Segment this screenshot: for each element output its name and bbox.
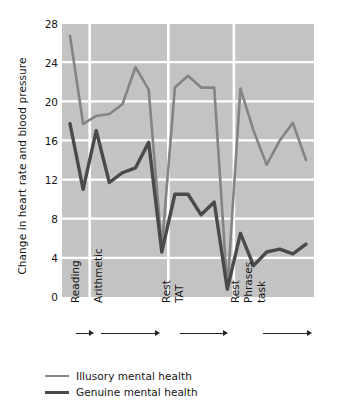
arrow-line-4 xyxy=(263,333,307,334)
x-label-rest-1: Rest xyxy=(160,280,172,303)
arrow-head-2 xyxy=(155,330,160,336)
arrow-line-2 xyxy=(101,333,155,334)
legend-label-genuine: Genuine mental health xyxy=(76,386,198,398)
x-label-reading: Reading xyxy=(69,260,81,303)
x-label-task: task xyxy=(255,281,267,303)
legend-label-illusory: Illusory mental health xyxy=(76,370,192,382)
chart-figure: Change in heart rate and blood pressure … xyxy=(0,0,339,412)
phase-separators xyxy=(90,23,234,297)
x-label-arithmetic: Arithmetic xyxy=(92,248,104,303)
arrow-line-1 xyxy=(76,333,89,334)
y-tick-label-28: 28 xyxy=(36,18,58,30)
x-tick-11 xyxy=(200,297,202,304)
y-tick-label-0: 0 xyxy=(36,291,58,303)
legend-item-genuine: Genuine mental health xyxy=(45,384,198,400)
y-tick-label-20: 20 xyxy=(36,96,58,108)
data-series-layer xyxy=(70,36,306,289)
x-tick-6 xyxy=(135,297,137,304)
y-tick-label-24: 24 xyxy=(36,57,58,69)
y-tick-label-12: 12 xyxy=(36,174,58,186)
x-tick-12 xyxy=(213,297,215,304)
series-line-genuine-mental-health xyxy=(70,124,306,289)
arrow-head-3 xyxy=(223,330,228,336)
x-label-phrases: Phrases xyxy=(242,262,254,303)
chart-legend: Illusory mental health Genuine mental he… xyxy=(45,368,198,400)
y-axis-title: Change in heart rate and blood pressure xyxy=(16,36,28,296)
x-tick-4 xyxy=(108,297,110,304)
legend-swatch-illusory xyxy=(45,375,69,377)
y-tick-label-4: 4 xyxy=(36,252,58,264)
x-tick-2 xyxy=(82,297,84,304)
x-label-rest-2: Rest xyxy=(229,280,241,303)
y-tick-label-16: 16 xyxy=(36,135,58,147)
x-tick-7 xyxy=(148,297,150,304)
x-tick-10 xyxy=(187,297,189,304)
x-tick-19 xyxy=(305,297,307,304)
y-tick-label-8: 8 xyxy=(36,213,58,225)
legend-item-illusory: Illusory mental health xyxy=(45,368,198,384)
arrow-line-3 xyxy=(180,333,223,334)
x-tick-18 xyxy=(292,297,294,304)
x-label-tat: TAT xyxy=(173,285,185,303)
arrow-head-4 xyxy=(307,330,312,336)
x-tick-17 xyxy=(279,297,281,304)
arrow-head-1 xyxy=(89,330,94,336)
x-tick-5 xyxy=(121,297,123,304)
legend-swatch-genuine xyxy=(45,391,69,394)
